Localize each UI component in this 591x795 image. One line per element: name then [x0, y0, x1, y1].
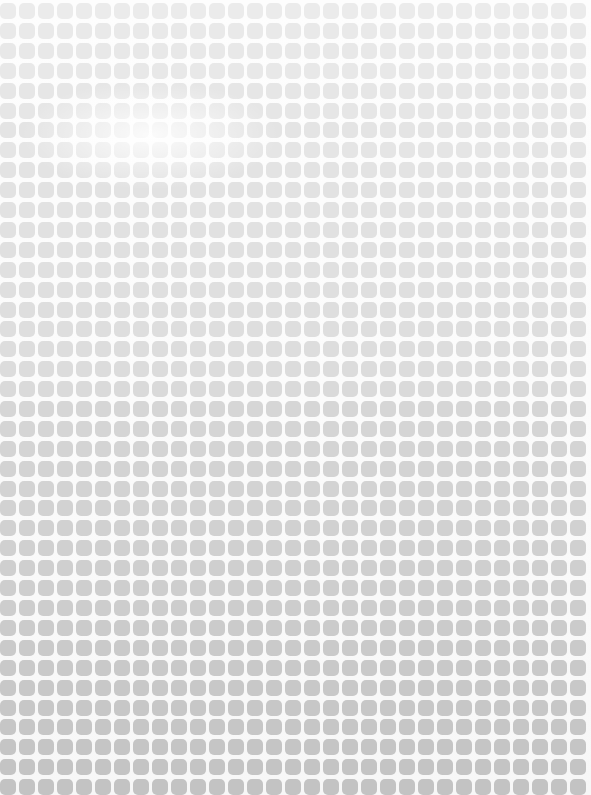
texture-cell [57, 262, 73, 278]
texture-cell [475, 461, 491, 477]
texture-cell [380, 341, 396, 357]
texture-cell [342, 83, 358, 99]
texture-cell [361, 421, 377, 437]
texture-cell [361, 660, 377, 676]
texture-cell [532, 421, 548, 437]
texture-cell [190, 600, 206, 616]
texture-cell [361, 282, 377, 298]
texture-cell [247, 680, 263, 696]
texture-cell [437, 83, 453, 99]
texture-cell [19, 321, 35, 337]
texture-cell [0, 282, 16, 298]
texture-cell [304, 262, 320, 278]
texture-cell [323, 580, 339, 596]
texture-cell [304, 83, 320, 99]
texture-cell [475, 600, 491, 616]
texture-cell [266, 461, 282, 477]
texture-cell [437, 660, 453, 676]
texture-cell [304, 103, 320, 119]
texture-cell [342, 600, 358, 616]
texture-cell [418, 540, 434, 556]
texture-row [0, 739, 586, 755]
texture-cell [418, 719, 434, 735]
texture-cell [418, 500, 434, 516]
texture-cell [76, 3, 92, 19]
texture-cell [513, 282, 529, 298]
texture-cell [133, 122, 149, 138]
texture-cell [551, 262, 567, 278]
texture-cell [361, 560, 377, 576]
texture-cell [190, 202, 206, 218]
texture-row [0, 700, 586, 716]
texture-cell [114, 540, 130, 556]
texture-cell [361, 321, 377, 337]
texture-cell [323, 182, 339, 198]
texture-cell [76, 103, 92, 119]
texture-cell [361, 580, 377, 596]
texture-cell [209, 202, 225, 218]
texture-cell [513, 341, 529, 357]
texture-cell [38, 759, 54, 775]
texture-cell [551, 282, 567, 298]
texture-cell [551, 620, 567, 636]
texture-cell [418, 103, 434, 119]
texture-cell [152, 361, 168, 377]
texture-cell [95, 700, 111, 716]
texture-cell [152, 83, 168, 99]
texture-cell [95, 660, 111, 676]
texture-cell [57, 779, 73, 795]
texture-cell [266, 680, 282, 696]
texture-cell [570, 759, 586, 775]
texture-cell [76, 381, 92, 397]
texture-cell [228, 779, 244, 795]
texture-cell [247, 341, 263, 357]
texture-cell [494, 142, 510, 158]
texture-cell [0, 361, 16, 377]
texture-cell [475, 43, 491, 59]
texture-cell [323, 500, 339, 516]
texture-cell [551, 321, 567, 337]
texture-row [0, 3, 586, 19]
texture-cell [456, 242, 472, 258]
texture-cell [551, 341, 567, 357]
texture-cell [570, 461, 586, 477]
texture-cell [494, 560, 510, 576]
texture-cell [190, 341, 206, 357]
texture-cell [399, 441, 415, 457]
texture-cell [228, 560, 244, 576]
texture-cell [133, 759, 149, 775]
texture-cell [513, 361, 529, 377]
texture-cell [285, 182, 301, 198]
texture-cell [133, 162, 149, 178]
texture-cell [494, 441, 510, 457]
texture-cell [0, 640, 16, 656]
texture-cell [266, 719, 282, 735]
texture-cell [209, 540, 225, 556]
texture-cell [513, 500, 529, 516]
texture-cell [437, 103, 453, 119]
texture-cell [437, 739, 453, 755]
texture-cell [0, 222, 16, 238]
texture-cell [95, 401, 111, 417]
texture-cell [133, 680, 149, 696]
texture-cell [133, 560, 149, 576]
texture-cell [437, 302, 453, 318]
texture-cell [95, 461, 111, 477]
texture-cell [475, 580, 491, 596]
texture-cell [456, 142, 472, 158]
texture-cell [304, 3, 320, 19]
texture-cell [38, 262, 54, 278]
texture-cell [304, 719, 320, 735]
texture-cell [228, 182, 244, 198]
texture-cell [228, 481, 244, 497]
texture-cell [285, 202, 301, 218]
texture-cell [532, 63, 548, 79]
texture-cell [494, 401, 510, 417]
texture-cell [475, 302, 491, 318]
texture-cell [342, 401, 358, 417]
texture-cell [342, 700, 358, 716]
texture-cell [76, 83, 92, 99]
texture-cell [304, 23, 320, 39]
texture-cell [171, 620, 187, 636]
texture-cell [38, 520, 54, 536]
